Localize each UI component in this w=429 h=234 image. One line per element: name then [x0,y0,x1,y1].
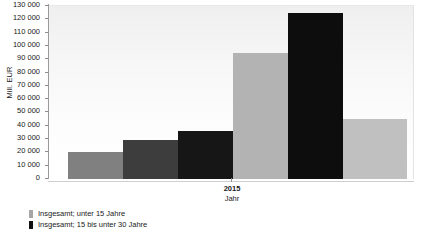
y-axis-tick-label: 110 000 [13,28,40,36]
x-axis-tick-mark [231,178,232,182]
legend-label: Insgesamt; 15 bis unter 30 Jahre [38,220,147,229]
bar [123,140,178,179]
legend-swatch [29,210,33,218]
x-axis-tick-label-2015: 2015 [196,184,268,193]
bar [233,53,288,179]
y-axis-tick-label: 50 000 [17,107,40,115]
bar [178,131,233,179]
y-axis-tick-label: 70 000 [17,81,40,89]
y-axis-tick-label: 40 000 [17,121,40,129]
y-axis-tick-label: 0 [36,174,40,182]
y-axis-tick-label: 80 000 [17,68,40,76]
y-axis-tick-label: 10 000 [17,161,40,169]
y-axis-tick-label: 60 000 [17,94,40,102]
bar-chart: Mill. EUR 130 000120 000110 000100 00090… [0,0,429,234]
x-axis-title: Jahr [196,194,268,203]
y-axis-tick-label: 100 000 [13,41,40,49]
y-axis-tick-label: 20 000 [17,147,40,155]
legend-swatch [29,221,33,229]
y-axis-tick-label: 130 000 [13,1,40,9]
y-axis-tick-labels: 130 000120 000110 000100 00090 00080 000… [0,0,45,182]
plot-area [49,5,414,179]
bar [343,119,407,179]
y-axis-tick-label: 120 000 [13,14,40,22]
y-axis-tick-label: 90 000 [17,54,40,62]
bar [288,13,343,179]
bar [68,152,123,179]
y-axis-tick-label: 30 000 [17,134,40,142]
legend-item: Insgesamt; unter 15 Jahre [29,208,147,219]
legend-item: Insgesamt; 15 bis unter 30 Jahre [29,219,147,230]
legend-label: Insgesamt; unter 15 Jahre [38,209,125,218]
chart-legend: Insgesamt; unter 15 JahreInsgesamt; 15 b… [29,208,147,230]
